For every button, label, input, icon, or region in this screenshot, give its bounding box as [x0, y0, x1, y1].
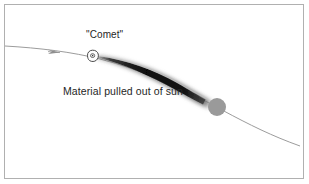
comet-label: "Comet" [86, 29, 123, 40]
comet-tail [97, 55, 213, 109]
material-pulled-out-of-sun-label: Material pulled out of sun [63, 85, 183, 97]
sun-disc [208, 98, 226, 116]
figure-root: "Comet" Material pulled out of sun [0, 0, 309, 184]
comet-nucleus [87, 50, 98, 61]
